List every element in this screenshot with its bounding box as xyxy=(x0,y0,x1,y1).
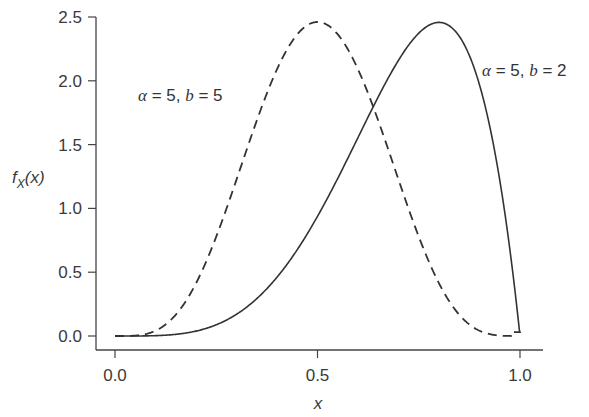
x-tick-label: 0.5 xyxy=(306,366,330,385)
y-axis-label: fX(x) xyxy=(12,168,45,191)
beta-density-chart: 0.00.51.01.52.02.5 0.00.51.0 α = 5, b = … xyxy=(0,0,589,417)
annotation-a5-b5: α = 5, b = 5 xyxy=(138,86,223,105)
x-tick-label: 0.0 xyxy=(103,366,127,385)
y-tick-label: 1.5 xyxy=(58,136,82,155)
y-tick-label: 0.5 xyxy=(58,263,82,282)
series-line-a5-b5 xyxy=(115,22,516,336)
annotation-a5-b2: α = 5, b = 2 xyxy=(482,61,567,80)
x-tick-label: 1.0 xyxy=(508,366,532,385)
x-axis-label: x xyxy=(313,394,323,413)
y-tick-label: 2.5 xyxy=(58,8,82,27)
y-tick-label: 1.0 xyxy=(58,199,82,218)
y-axis-ticks: 0.00.51.01.52.02.5 xyxy=(58,8,96,346)
series-line-a5-b2 xyxy=(115,22,520,336)
y-tick-label: 0.0 xyxy=(58,327,82,346)
x-axis-ticks: 0.00.51.0 xyxy=(103,350,532,385)
y-tick-label: 2.0 xyxy=(58,72,82,91)
